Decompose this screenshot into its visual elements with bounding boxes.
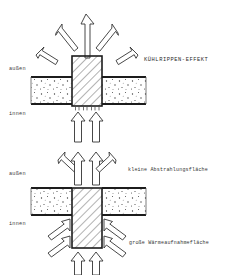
wall-section-lower-left bbox=[31, 188, 72, 215]
label-inside-upper: innen bbox=[9, 112, 26, 117]
figure-title: KÜHLRIPPEN-EFFEKT bbox=[144, 58, 208, 63]
heat-emission-arrows-lower bbox=[58, 152, 116, 185]
label-outside-lower: außen bbox=[9, 172, 26, 177]
wall-section-lower-right bbox=[102, 188, 146, 215]
upper-diagram-group bbox=[31, 14, 146, 142]
label-emission-surface: kleine Abstrahlungsfläche bbox=[128, 168, 208, 173]
wall-section-upper-left bbox=[31, 77, 72, 104]
thermal-bridge-pillar-lower bbox=[72, 188, 102, 248]
heat-flux-ticks-upper bbox=[76, 107, 100, 110]
label-outside-upper: außen bbox=[9, 67, 26, 72]
wall-section-upper-right bbox=[102, 77, 146, 104]
heat-intake-arrows-upper bbox=[71, 112, 103, 142]
thermal-bridge-pillar-upper bbox=[72, 56, 102, 106]
diagram-drawing bbox=[0, 0, 228, 275]
figure-canvas: außen innen KÜHLRIPPEN-EFFEKT außen inne… bbox=[0, 0, 228, 275]
label-absorption-surface: große Wärmeaufnahmefläche bbox=[129, 241, 209, 246]
label-inside-lower: innen bbox=[9, 222, 26, 227]
